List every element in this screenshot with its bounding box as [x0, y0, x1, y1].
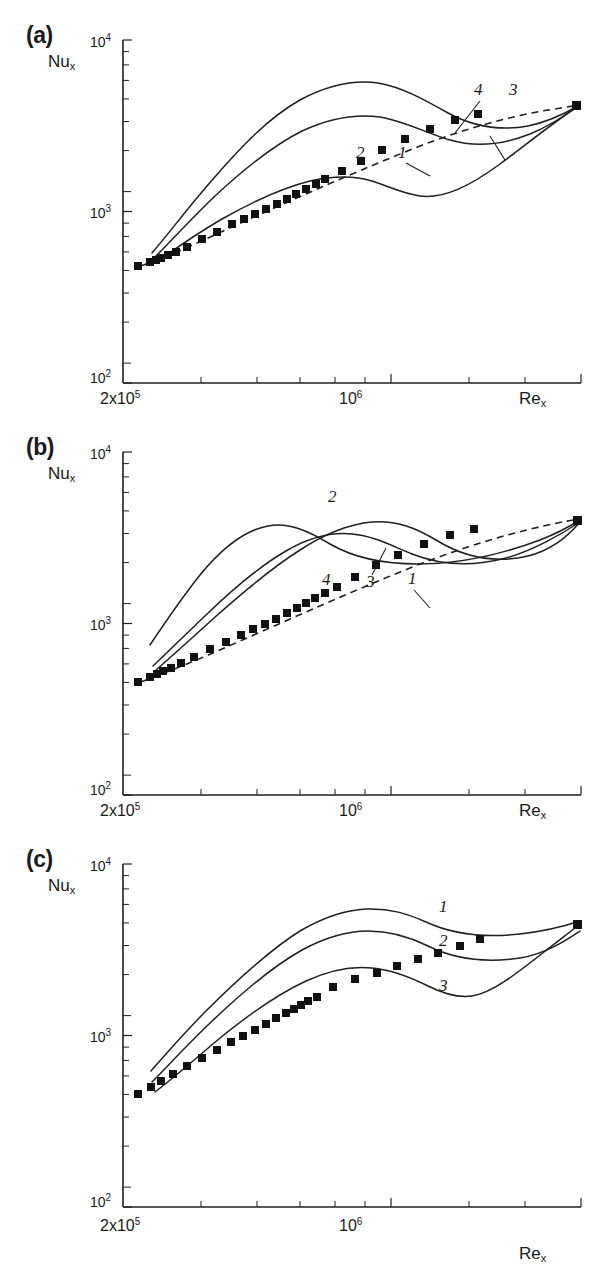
panel-c-curve-label-3: 3 — [438, 976, 448, 995]
panel-b-curve-2 — [155, 522, 580, 671]
panel-b: (b) Nux Rex 104 103 102 2x105 106 — [0, 412, 611, 824]
panel-c-curve-label-1: 1 — [439, 897, 448, 916]
panel-b-curve-label-3: 3 — [365, 572, 375, 591]
panel-b-curve-label-4-group: 4 — [322, 570, 331, 589]
panel-b-y-major-ticks — [123, 452, 132, 795]
panel-a-y-minor-ticks — [123, 52, 131, 364]
panel-b-plot: 2 4 3 1 — [0, 412, 611, 824]
panel-b-experimental-dashed-line — [141, 519, 580, 682]
panel-c-curve-3 — [155, 924, 580, 1092]
panel-c-y-minor-ticks — [123, 876, 131, 1188]
panel-a-data-markers — [134, 101, 581, 270]
panel-c-curve-label-2: 2 — [439, 931, 448, 950]
panel-a-curve-label-1-group: 1 — [398, 136, 505, 176]
panel-c-curve-label-2-group: 2 — [439, 931, 448, 950]
panel-c-x-ticks — [201, 1198, 581, 1207]
panel-b-x-ticks — [201, 786, 581, 795]
panel-a-plot: 4 3 2 1 — [0, 0, 611, 412]
panel-c: (c) Nux Rex 104 103 102 2x105 106 — [0, 824, 611, 1274]
panel-a-y-major-ticks — [123, 40, 132, 383]
panel-b-curve-label-1-group: 1 — [408, 569, 430, 608]
panel-a-curve-label-3: 3 — [508, 80, 518, 99]
panel-b-curve-label-1: 1 — [408, 569, 417, 588]
panel-a-curve-2 — [156, 105, 580, 263]
panel-a-curve-label-2-group: 2 — [356, 143, 365, 162]
panel-b-curve-3 — [153, 522, 580, 666]
panel-b-curve-label-3-group: 3 — [365, 548, 386, 591]
panel-b-curve-4 — [150, 520, 580, 645]
panel-c-y-major-ticks — [123, 864, 132, 1207]
panel-a-curve-label-2: 2 — [356, 143, 365, 162]
panel-b-data-markers — [134, 516, 582, 686]
panel-b-y-minor-ticks — [123, 464, 131, 775]
panel-c-curve-label-1-group: 1 — [439, 897, 448, 916]
panel-a-x-ticks — [201, 374, 581, 383]
panel-c-data-markers — [134, 920, 582, 1098]
panel-a-curve-label-4: 4 — [474, 80, 483, 99]
panel-a-curve-label-1: 1 — [398, 143, 407, 162]
panel-a: (a) Nux Rex 104 103 102 2x105 106 — [0, 0, 611, 412]
panel-c-curve-label-3-group: 3 — [438, 976, 448, 995]
panel-a-curve-label-3-group: 3 — [508, 80, 518, 99]
panel-b-curve-label-2-group: 2 — [328, 487, 337, 506]
panel-b-curve-label-4: 4 — [322, 570, 331, 589]
panel-b-curve-label-2: 2 — [328, 487, 337, 506]
panel-c-plot: 1 2 3 — [0, 824, 611, 1274]
panel-c-curve-2 — [152, 931, 580, 1082]
figure-nusselt-reynolds: (a) Nux Rex 104 103 102 2x105 106 — [0, 0, 611, 1274]
